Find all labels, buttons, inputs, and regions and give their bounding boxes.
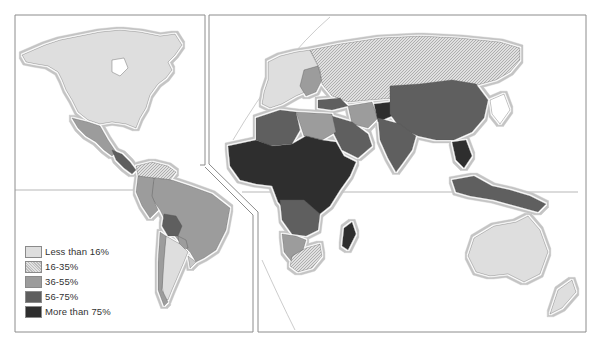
region-north-africa-west	[256, 110, 300, 146]
legend-item-16-35: 16-35%	[25, 259, 111, 274]
legend-item-gt75: More than 75%	[25, 304, 111, 319]
legend-item-36-55: 36-55%	[25, 274, 111, 289]
legend-swatch-56-75	[25, 291, 42, 303]
region-new-zealand	[550, 280, 576, 314]
region-north-america	[22, 30, 182, 128]
legend-swatch-gt75	[25, 306, 42, 318]
legend-swatch-lt16	[25, 246, 42, 258]
legend-label: Less than 16%	[45, 246, 109, 257]
region-central-america	[112, 150, 136, 174]
region-north-africa-east	[296, 112, 336, 140]
legend-swatch-16-35	[25, 261, 42, 273]
legend-item-56-75: 56-75%	[25, 289, 111, 304]
legend-label: More than 75%	[45, 306, 111, 317]
region-australia	[468, 216, 548, 282]
legend-swatch-36-55	[25, 276, 42, 288]
region-japan-korea	[490, 94, 510, 124]
legend-item-lt16: Less than 16%	[25, 244, 111, 259]
map-legend: Less than 16% 16-35% 36-55% 56-75% More …	[25, 244, 111, 319]
region-madagascar	[342, 222, 356, 250]
legend-label: 56-75%	[45, 291, 78, 302]
legend-label: 36-55%	[45, 276, 78, 287]
region-mexico	[72, 118, 116, 156]
region-indonesia	[452, 176, 546, 212]
region-southeast-asia	[452, 140, 472, 168]
legend-label: 16-35%	[45, 261, 78, 272]
